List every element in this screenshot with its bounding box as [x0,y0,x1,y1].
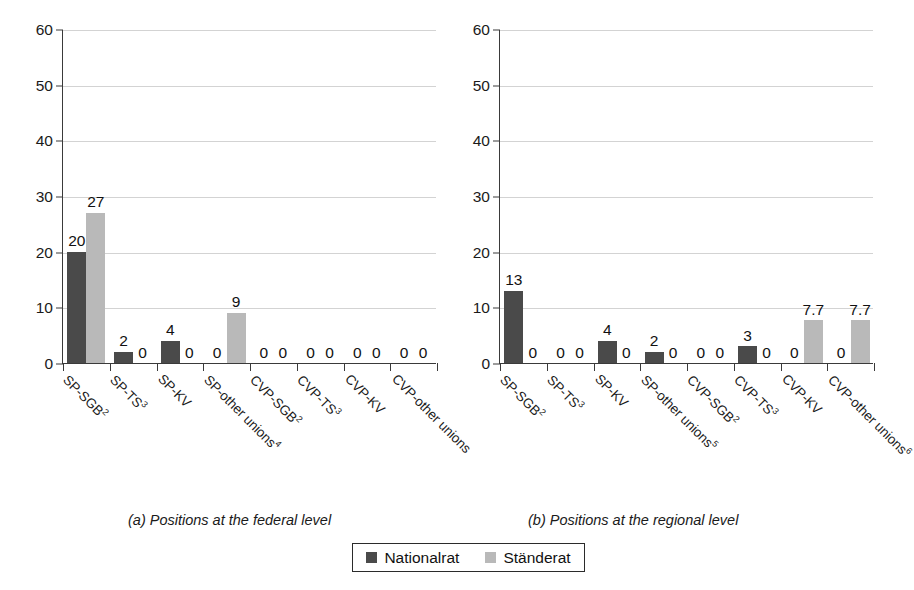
x-tick-mark [547,363,548,371]
bar-nationalrat-CVP-other unions: 0 [395,30,414,363]
bar [851,320,870,363]
bar-ständerat-CVP-KV: 0 [367,30,386,363]
bar-value-label: 4 [166,322,175,338]
x-axis-label-b-2: SP-KV [592,372,630,410]
x-tick-mark [594,363,595,371]
bar-value-label: 13 [505,272,522,288]
bar-ständerat-SP-TS3: 0 [570,30,589,363]
bar-ständerat-CVP-other unions6: 7.7 [851,30,870,363]
bar-nationalrat-SP-TS3: 0 [551,30,570,363]
bar-ständerat-SP-other unions5: 0 [664,30,683,363]
bar [738,346,757,363]
x-axis-label-a-2: SP-KV [155,372,193,410]
x-tick-mark [297,363,298,371]
bar-nationalrat-SP-other unions5: 2 [645,30,664,363]
y-tick-label: 40 [36,134,63,150]
bar-value-label: 4 [603,322,612,338]
y-tick-label: 0 [481,356,500,372]
bar-group: 40 [157,30,204,363]
y-tick-label: 40 [473,134,500,150]
x-tick-mark [250,363,251,371]
x-axis-label-b-7: CVP-other unions6 [825,372,913,460]
x-tick-mark [827,363,828,371]
bar-value-label: 0 [279,345,288,361]
x-axis-label-a-5: CVP-TS3 [295,372,344,421]
bar-ständerat-SP-KV: 0 [617,30,636,363]
legend-item-ständerat: Ständerat [485,550,570,566]
y-tick-label: 30 [473,189,500,205]
x-tick-mark [687,363,688,371]
bar [227,313,246,363]
y-tick-label: 60 [473,22,500,38]
bar-value-label: 0 [353,345,362,361]
bar-nationalrat-SP-TS3: 2 [114,30,133,363]
bar-ständerat-CVP-TS3: 0 [757,30,776,363]
bar-ständerat-CVP-SGB2: 0 [710,30,729,363]
bar-value-label: 7.7 [849,302,871,318]
bar-value-label: 0 [325,345,334,361]
label-superscript: 5 [710,439,721,450]
bar-value-label: 0 [138,345,147,361]
bar [161,341,180,363]
x-tick-mark [500,363,501,371]
bar [67,252,86,363]
bar-ständerat-SP-other unions4: 9 [227,30,246,363]
bar-group: 20 [110,30,157,363]
x-tick-mark [157,363,158,371]
x-tick-mark [203,363,204,371]
bar-value-label: 0 [185,345,194,361]
x-axis-label-b-0: SP-SGB2 [498,372,548,422]
bar-value-label: 0 [762,345,771,361]
bar-nationalrat-CVP-TS3: 3 [738,30,757,363]
bar-nationalrat-CVP-other unions6: 0 [832,30,851,363]
bar-group: 09 [203,30,250,363]
bar-nationalrat-CVP-KV: 0 [348,30,367,363]
y-tick-label: 20 [36,245,63,261]
bar-ständerat-CVP-SGB2: 0 [273,30,292,363]
label-superscript: 2 [731,414,742,425]
bar-value-label: 20 [68,233,85,249]
bar-value-label: 0 [575,345,584,361]
bar-value-label: 0 [529,345,538,361]
bar-group: 00 [344,30,391,363]
caption-b: (b) Positions at the regional level [528,512,738,528]
label-superscript: 2 [538,407,549,418]
label-superscript: 3 [333,406,344,417]
label-superscript: 4 [273,439,284,450]
bar-value-label: 27 [87,194,104,210]
bar-value-label: 0 [622,345,631,361]
label-superscript: 3 [140,399,151,410]
bar [804,320,823,363]
bar-group: 00 [297,30,344,363]
bar-group: 00 [250,30,297,363]
bar-nationalrat-CVP-SGB2: 0 [691,30,710,363]
x-axis-label-a-0: SP-SGB2 [61,372,111,422]
bar-value-label: 0 [260,345,269,361]
bar-value-label: 0 [669,345,678,361]
x-axis-label-b-6: CVP-KV [779,372,824,417]
bar-ständerat-SP-SGB2: 27 [86,30,105,363]
x-tick-mark [781,363,782,371]
bar-ständerat-SP-KV: 0 [180,30,199,363]
y-tick-label: 10 [36,301,63,317]
x-tick-mark [734,363,735,371]
bar [86,213,105,363]
y-tick-label: 0 [44,356,63,372]
bar-group: 130 [500,30,547,363]
bar-value-label: 0 [697,345,706,361]
bar-ständerat-SP-SGB2: 0 [523,30,542,363]
bar [645,352,664,363]
bar-group: 07.7 [827,30,874,363]
x-tick-mark [344,363,345,371]
label-superscript: 2 [294,414,305,425]
bar-group: 40 [594,30,641,363]
x-axis-label-b-1: SP-TS3 [545,372,587,414]
x-tick-mark [63,363,64,371]
x-axis-label-a-6: CVP-KV [342,372,387,417]
y-tick-label: 20 [473,245,500,261]
x-tick-mark [110,363,111,371]
bar-nationalrat-CVP-SGB2: 0 [254,30,273,363]
x-axis-label-a-1: SP-TS3 [108,372,150,414]
label-superscript: 3 [577,399,588,410]
plot-area-a: 0102030405060202720400900000000 [62,30,436,364]
